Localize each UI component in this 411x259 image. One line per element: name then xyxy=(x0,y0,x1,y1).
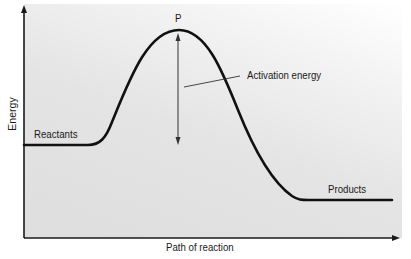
energy-curve xyxy=(24,30,392,200)
x-axis-label: Path of reaction xyxy=(166,241,234,253)
activation-leader-line xyxy=(184,76,240,87)
peak-label: P xyxy=(175,12,181,24)
arrow-up-icon xyxy=(176,33,181,41)
activation-energy-label: Activation energy xyxy=(247,69,321,81)
y-axis-label: Energy xyxy=(6,94,18,134)
reactants-label: Reactants xyxy=(34,128,77,140)
products-label: Products xyxy=(328,183,366,195)
arrow-down-icon xyxy=(176,137,181,145)
